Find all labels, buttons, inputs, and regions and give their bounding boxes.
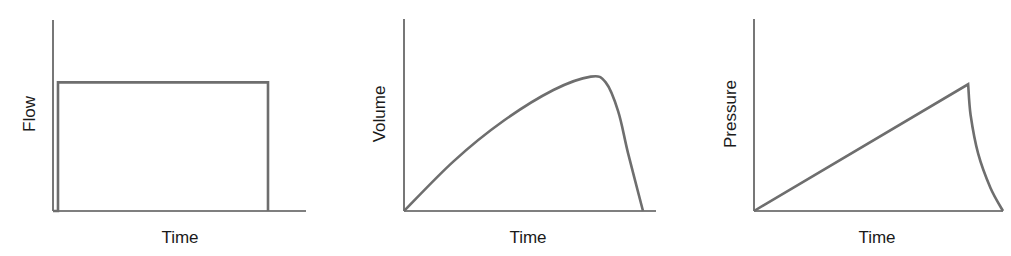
volume-curve — [404, 76, 643, 211]
pressure-x-label: Time — [858, 228, 895, 247]
volume-y-label: Volume — [370, 86, 389, 143]
flow-panel: Time Flow — [20, 20, 306, 247]
pressure-curve — [754, 84, 1003, 211]
volume-panel: Time Volume — [370, 19, 656, 247]
flow-y-label: Flow — [20, 95, 39, 132]
pressure-y-label: Pressure — [721, 80, 740, 148]
waveform-diagrams: Time Flow Time Volume Time Pressure — [0, 0, 1011, 256]
volume-x-label: Time — [509, 228, 546, 247]
pressure-panel: Time Pressure — [721, 19, 1003, 247]
flow-curve — [53, 82, 268, 211]
flow-x-label: Time — [161, 228, 198, 247]
